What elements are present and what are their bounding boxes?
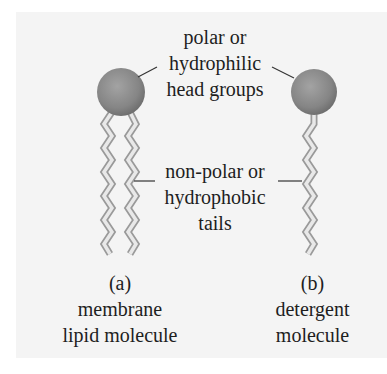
head-label-line-1: polar or bbox=[150, 24, 280, 50]
caption-membrane-lipid: (a) membrane lipid molecule bbox=[40, 270, 200, 348]
detergent-head-group bbox=[291, 69, 337, 115]
detergent-tail bbox=[306, 112, 314, 254]
lipid-head-group bbox=[97, 68, 145, 116]
head-label-line-2: hydrophilic bbox=[150, 50, 280, 76]
caption-a-line-2: lipid molecule bbox=[40, 322, 200, 348]
caption-b-line-2: molecule bbox=[250, 322, 375, 348]
tails-label: non-polar or hydrophobic tails bbox=[150, 158, 280, 236]
tail-label-line-2: hydrophobic bbox=[150, 184, 280, 210]
head-groups-label: polar or hydrophilic head groups bbox=[150, 24, 280, 102]
caption-a-line-1: membrane bbox=[40, 296, 200, 322]
lipid-tail-1 bbox=[104, 112, 112, 254]
caption-b-line-1: detergent bbox=[250, 296, 375, 322]
lipid-tail-2 bbox=[128, 112, 136, 254]
head-label-line-3: head groups bbox=[150, 76, 280, 102]
caption-detergent: (b) detergent molecule bbox=[250, 270, 375, 348]
caption-a-letter: (a) bbox=[40, 270, 200, 296]
tail-label-line-3: tails bbox=[150, 210, 280, 236]
tail-label-line-1: non-polar or bbox=[150, 158, 280, 184]
caption-b-letter: (b) bbox=[250, 270, 375, 296]
